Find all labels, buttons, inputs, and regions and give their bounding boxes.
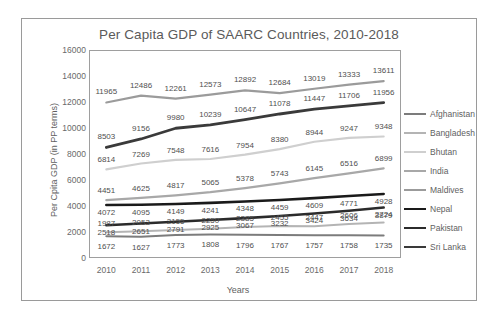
legend-item-sri-lanka[interactable]: Sri Lanka bbox=[404, 237, 496, 256]
legend-item-maldives[interactable]: Maldives bbox=[404, 180, 496, 199]
x-axis-tick: 2010 bbox=[97, 265, 116, 275]
y-axis-tick: 10000 bbox=[62, 124, 86, 133]
series-line-maldives bbox=[106, 81, 383, 102]
chart-title: Per Capita GDP of SAARC Countries, 2010-… bbox=[21, 27, 477, 42]
legend-label: India bbox=[430, 166, 448, 176]
y-axis-tick-labels: 0200040006000800010000120001400016000 bbox=[47, 50, 86, 258]
legend-item-bangladesh[interactable]: Bangladesh bbox=[404, 123, 496, 142]
legend-swatch-icon bbox=[404, 132, 426, 134]
legend-label: Nepal bbox=[430, 204, 452, 214]
series-line-bhutan bbox=[106, 136, 383, 169]
legend-item-pakistan[interactable]: Pakistan bbox=[404, 218, 496, 237]
y-axis-tick: 6000 bbox=[67, 176, 86, 185]
legend-swatch-icon bbox=[404, 246, 426, 248]
legend-swatch-icon bbox=[404, 208, 426, 210]
x-axis-tick: 2014 bbox=[236, 265, 255, 275]
x-axis-tick: 2018 bbox=[374, 265, 393, 275]
chart-legend: AfghanistanBangladeshBhutanIndiaMaldives… bbox=[404, 104, 496, 256]
x-axis-tick: 2017 bbox=[340, 265, 359, 275]
legend-item-afghanistan[interactable]: Afghanistan bbox=[404, 104, 496, 123]
legend-swatch-icon bbox=[404, 151, 426, 153]
legend-swatch-icon bbox=[404, 170, 426, 172]
chart-page: Per Capita GDP of SAARC Countries, 2010-… bbox=[0, 0, 500, 321]
legend-label: Maldives bbox=[430, 185, 464, 195]
x-axis-tick-labels: 201020112012201320142015201620172018 bbox=[89, 265, 401, 279]
x-axis-tick: 2016 bbox=[305, 265, 324, 275]
legend-swatch-icon bbox=[404, 227, 426, 229]
y-axis-tick: 0 bbox=[81, 254, 86, 263]
legend-swatch-icon bbox=[404, 113, 426, 115]
legend-label: Afghanistan bbox=[430, 109, 475, 119]
legend-swatch-icon bbox=[404, 189, 426, 191]
y-axis-tick: 14000 bbox=[62, 72, 86, 81]
series-line-sri-lanka bbox=[106, 103, 383, 148]
y-axis-tick: 2000 bbox=[67, 228, 86, 237]
legend-label: Bhutan bbox=[430, 147, 457, 157]
x-axis-title: Years bbox=[88, 285, 388, 295]
x-axis-tick: 2011 bbox=[132, 265, 150, 275]
y-axis-tick: 8000 bbox=[67, 150, 86, 159]
series-line-pakistan bbox=[106, 208, 383, 226]
legend-label: Sri Lanka bbox=[430, 242, 466, 252]
legend-item-india[interactable]: India bbox=[404, 161, 496, 180]
y-axis-tick: 12000 bbox=[62, 98, 86, 107]
y-axis-tick: 16000 bbox=[62, 46, 86, 55]
legend-label: Bangladesh bbox=[430, 128, 475, 138]
series-line-afghanistan bbox=[106, 235, 383, 237]
x-axis-tick: 2013 bbox=[201, 265, 220, 275]
legend-item-bhutan[interactable]: Bhutan bbox=[404, 142, 496, 161]
x-axis-tick: 2012 bbox=[166, 265, 185, 275]
legend-label: Pakistan bbox=[430, 223, 463, 233]
series-line-nepal bbox=[106, 194, 383, 205]
legend-item-nepal[interactable]: Nepal bbox=[404, 199, 496, 218]
x-axis-tick: 2015 bbox=[270, 265, 289, 275]
y-axis-tick: 4000 bbox=[67, 202, 86, 211]
plot-lines bbox=[89, 50, 401, 258]
